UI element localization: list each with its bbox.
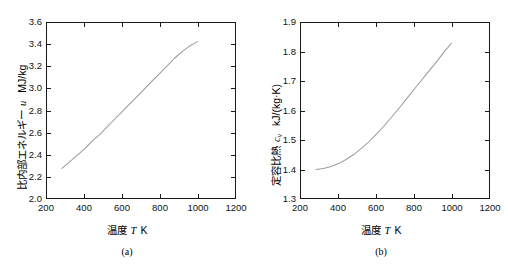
y-tick-left <box>46 88 51 89</box>
x-tick-label: 200 <box>26 203 66 213</box>
x-tick-label: 600 <box>102 203 142 213</box>
y-tick-left <box>46 44 51 45</box>
x-tick-top <box>452 22 453 27</box>
x-tick-bottom <box>452 194 453 199</box>
x-tick-bottom <box>160 194 161 199</box>
figure-container: 20040060080010001200 2.02.22.42.62.83.03… <box>0 0 508 270</box>
x-tick-top <box>376 22 377 27</box>
panel-caption-b: (b) <box>254 246 508 257</box>
y-tick-right <box>231 133 236 134</box>
y-axis-title-text-a: 比内部エネルギー <box>16 110 28 190</box>
x-axis-unit-a: K <box>140 224 147 236</box>
y-axis-unit-a: MJ/kg <box>16 65 28 93</box>
y-tick-left <box>300 170 305 171</box>
y-tick-left <box>46 66 51 67</box>
y-tick-label: 3.6 <box>8 17 42 27</box>
y-tick-label: 1.8 <box>262 47 296 57</box>
y-axis-title-a: 比内部エネルギーuMJ/kg <box>14 65 29 190</box>
y-tick-right <box>231 155 236 156</box>
x-tick-top <box>84 22 85 27</box>
y-tick-left <box>46 177 51 178</box>
x-axis-title-text-a: 温度 <box>107 224 127 236</box>
x-tick-label: 400 <box>64 203 104 213</box>
x-axis-unit-b: K <box>394 224 401 236</box>
x-tick-label: 800 <box>140 203 180 213</box>
chart-panel-b: 20040060080010001200 1.31.41.51.61.71.81… <box>254 0 508 270</box>
x-axis-title-text-b: 温度 <box>361 224 381 236</box>
y-tick-right <box>485 111 490 112</box>
y-tick-left <box>300 52 305 53</box>
y-tick-right <box>231 177 236 178</box>
x-tick-top <box>338 22 339 27</box>
x-tick-bottom <box>122 194 123 199</box>
y-axis-subscript-b: v <box>275 134 284 137</box>
y-tick-label: 3.4 <box>8 39 42 49</box>
x-axis-title-b: 温度TK <box>254 222 508 237</box>
x-tick-top <box>160 22 161 27</box>
y-axis-unit-b: kJ/(kg·K) <box>270 84 282 126</box>
y-tick-left <box>46 111 51 112</box>
y-tick-left <box>300 81 305 82</box>
y-tick-left <box>46 133 51 134</box>
x-tick-label: 1000 <box>432 203 472 213</box>
x-tick-label: 800 <box>394 203 434 213</box>
y-tick-right <box>485 140 490 141</box>
x-axis-symbol-a: T <box>131 225 137 236</box>
x-tick-top <box>414 22 415 27</box>
y-tick-right <box>231 44 236 45</box>
y-axis-symbol-b: c <box>271 137 282 142</box>
y-tick-right <box>485 81 490 82</box>
x-tick-bottom <box>338 194 339 199</box>
y-tick-right <box>231 66 236 67</box>
y-tick-left <box>300 111 305 112</box>
x-tick-top <box>122 22 123 27</box>
panel-caption-a: (a) <box>0 246 254 257</box>
x-tick-label: 200 <box>280 203 320 213</box>
chart-panel-a: 20040060080010001200 2.02.22.42.62.83.03… <box>0 0 254 270</box>
y-tick-label: 1.3 <box>262 194 296 204</box>
x-tick-label: 1200 <box>216 203 256 213</box>
data-curve-a <box>47 23 235 198</box>
y-tick-right <box>231 111 236 112</box>
x-tick-bottom <box>84 194 85 199</box>
y-tick-label: 2.0 <box>8 194 42 204</box>
x-tick-label: 400 <box>318 203 358 213</box>
y-tick-right <box>485 170 490 171</box>
y-tick-left <box>300 140 305 141</box>
x-tick-top <box>198 22 199 27</box>
y-tick-label: 1.9 <box>262 17 296 27</box>
y-axis-symbol-a: u <box>17 101 28 106</box>
x-tick-label: 1200 <box>470 203 508 213</box>
y-tick-right <box>231 88 236 89</box>
plot-area-b <box>300 22 490 199</box>
x-tick-label: 1000 <box>178 203 218 213</box>
x-tick-label: 600 <box>356 203 396 213</box>
x-tick-bottom <box>376 194 377 199</box>
y-axis-title-b: 定容比熱cvkJ/(kg·K) <box>268 84 284 186</box>
y-axis-title-text-b: 定容比熱 <box>270 146 282 186</box>
data-curve-b <box>301 23 489 198</box>
x-axis-title-a: 温度TK <box>0 222 254 237</box>
plot-area-a <box>46 22 236 199</box>
y-tick-left <box>46 155 51 156</box>
x-axis-symbol-b: T <box>385 225 391 236</box>
x-tick-bottom <box>198 194 199 199</box>
y-tick-right <box>485 52 490 53</box>
x-tick-bottom <box>414 194 415 199</box>
